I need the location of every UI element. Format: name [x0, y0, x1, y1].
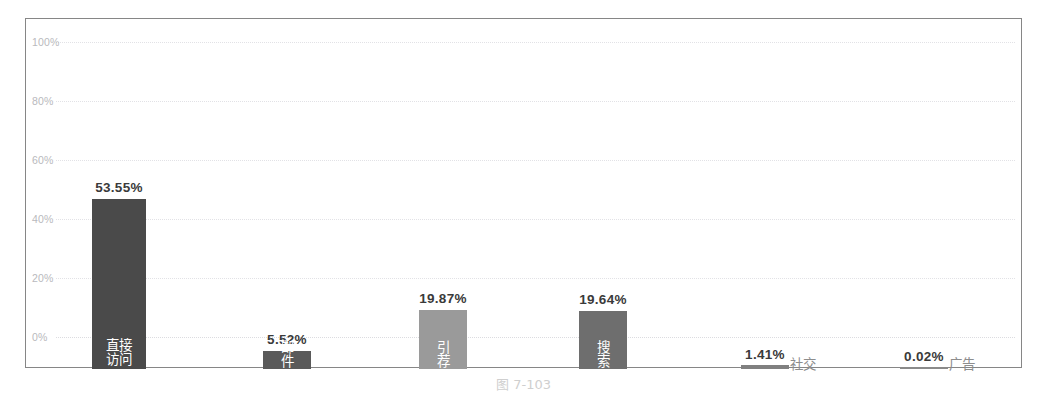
bar-social[interactable]: 1.41% 社交: [741, 51, 789, 369]
bar-referral[interactable]: 19.87% 引荐: [419, 51, 467, 369]
bar-ads[interactable]: 0.02% 广告: [900, 51, 948, 369]
ytick-label-0: 0%: [32, 332, 76, 343]
bar-label-search: 搜索: [591, 340, 615, 368]
ytick-label-60: 60%: [32, 155, 76, 166]
bar-direct[interactable]: 53.55% 直接 访问: [92, 51, 146, 369]
figure-caption: 图 7-103: [0, 374, 1047, 394]
gridline-100: [56, 42, 1015, 43]
bar-label-email: 邮件: [275, 340, 299, 368]
bar-value-ads: 0.02%: [904, 350, 944, 364]
bar-rect-ads: [900, 367, 948, 369]
bar-value-direct: 53.55%: [95, 181, 143, 195]
gridline-20: [56, 278, 1015, 279]
plot-area: 100% 80% 60% 40% 20% 0% 53.55% 直接 访问 5.5…: [26, 19, 1023, 369]
gridline-60: [56, 160, 1015, 161]
bar-label-social: 社交: [790, 358, 816, 372]
bar-search[interactable]: 19.64% 搜索: [579, 51, 627, 369]
bar-value-search: 19.64%: [579, 293, 627, 307]
ytick-label-80: 80%: [32, 96, 76, 107]
bar-label-direct: 直接 访问: [106, 338, 132, 366]
bar-value-referral: 19.87%: [419, 292, 467, 306]
bar-email[interactable]: 5.52% 邮件: [263, 51, 311, 369]
ytick-label-100: 100%: [32, 37, 76, 48]
ytick-label-40: 40%: [32, 214, 76, 225]
bar-label-referral: 引荐: [431, 340, 455, 368]
ytick-label-20: 20%: [32, 273, 76, 284]
bar-value-social: 1.41%: [745, 348, 785, 362]
gridline-80: [56, 101, 1015, 102]
bar-label-ads: 广告: [949, 358, 975, 372]
gridline-0: [56, 337, 1015, 338]
gridline-40: [56, 219, 1015, 220]
bar-rect-social: [741, 365, 789, 369]
chart-frame: 100% 80% 60% 40% 20% 0% 53.55% 直接 访问 5.5…: [25, 18, 1022, 368]
